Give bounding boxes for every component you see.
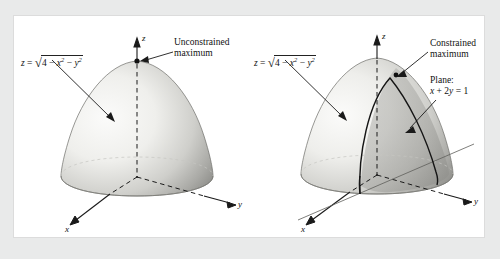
unconstrained-maximum-line1: Unconstrained xyxy=(174,37,229,48)
unconstrained-maximum-line2: maximum xyxy=(174,48,229,59)
eq-equals: = xyxy=(260,58,265,68)
right-figure-panel: z = √4 − x2 − y2 Constrained maximum Pla… xyxy=(250,16,484,237)
left-z-axis-label: z xyxy=(142,33,146,43)
z-axis xyxy=(374,36,380,59)
right-surface-equation: z = √4 − x2 − y2 xyxy=(254,54,316,69)
eq-lhs: z xyxy=(21,58,25,68)
eq-exp-x: 2 xyxy=(294,56,297,63)
plane-eq-equals: = xyxy=(456,86,461,96)
eq-exp-x: 2 xyxy=(61,56,64,63)
eq-radicand-a: 4 xyxy=(275,58,280,68)
eq-lhs: z xyxy=(254,58,258,68)
eq-equals: = xyxy=(27,58,32,68)
eq-radicand-a: 4 xyxy=(42,58,47,68)
left-x-axis-label: x xyxy=(65,224,69,234)
figure-frame: z = √4 − x2 − y2 Unconstrained maximum z… xyxy=(14,16,484,237)
plane-equation: x + 2y = 1 xyxy=(430,86,468,97)
eq-minus-1: − xyxy=(282,58,287,68)
plane-cut-edge xyxy=(359,176,360,194)
plane-eq-plus: + xyxy=(437,86,442,96)
eq-exp-y: 2 xyxy=(79,56,82,63)
eq-minus-1: − xyxy=(49,58,54,68)
max-leader-line xyxy=(146,52,173,60)
right-z-axis-label: z xyxy=(382,31,386,41)
left-figure-panel: z = √4 − x2 − y2 Unconstrained maximum z… xyxy=(14,16,250,237)
right-x-axis-label: x xyxy=(301,224,305,234)
plane-title: Plane: xyxy=(430,75,468,86)
unconstrained-max-point xyxy=(134,58,139,63)
plane-eq-y: y xyxy=(449,86,453,96)
constrained-maximum-line2: maximum xyxy=(430,49,476,60)
eq-exp-y: 2 xyxy=(312,56,315,63)
eq-minus-2: − xyxy=(67,58,72,68)
constrained-maximum-label: Constrained maximum xyxy=(430,38,476,61)
eq-minus-2: − xyxy=(300,58,305,68)
plane-label: Plane: x + 2y = 1 xyxy=(430,75,468,98)
constrained-max-leader-line xyxy=(402,52,428,73)
left-y-axis-label: y xyxy=(238,199,242,209)
constrained-maximum-line1: Constrained xyxy=(430,38,476,49)
left-surface-equation: z = √4 − x2 − y2 xyxy=(21,54,83,69)
plane-eq-rhs: 1 xyxy=(463,86,468,96)
unconstrained-maximum-label: Unconstrained maximum xyxy=(174,37,229,60)
plane-eq-x: x xyxy=(430,86,434,96)
right-y-axis-label: y xyxy=(474,196,478,206)
